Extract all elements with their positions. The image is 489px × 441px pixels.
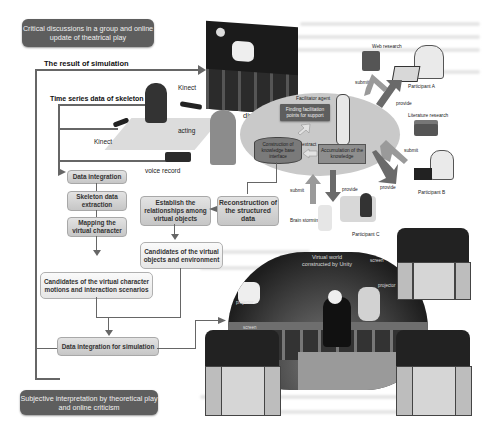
title-critical-discussions: Critical discussions in a group and onli… [22, 19, 154, 47]
knowledge-base-cylinder: Construction of knowledge base interface [254, 137, 302, 164]
arrow-left-icon [209, 206, 217, 212]
label-projector-tl: projector [236, 300, 254, 305]
label-facilitator-agent: Facilitator agent [296, 96, 330, 101]
box-finding-facilitation-points: Finding facilitation points for support [280, 104, 330, 121]
result-line-bottom [35, 378, 60, 380]
box-reconstruction: Reconstruction of the structured data [217, 196, 279, 226]
connector [96, 183, 97, 191]
label-literature-research: Literature research [408, 113, 448, 118]
connector [96, 210, 97, 217]
cave-display-bottom-left [205, 330, 279, 416]
cave-display-bottom-right [396, 330, 470, 416]
arrow-provide-a-icon [376, 80, 402, 108]
arrow-provide-b-icon [372, 150, 398, 184]
label-projector-tr: projector [378, 283, 396, 288]
arrow-right-icon [218, 317, 226, 324]
connector [96, 297, 97, 317]
box-data-integration: Data integration [67, 170, 127, 184]
label-extract: extract [302, 142, 316, 147]
arrow-up-icon [298, 124, 310, 135]
label-screen-tr: screen [370, 258, 384, 263]
actor-figure-image [145, 83, 167, 123]
kinect-device-icon [180, 101, 203, 110]
sim-line-to-world [195, 320, 220, 321]
label-virtual-world: Virtual world constructed by Unity [297, 254, 357, 268]
arrow-down-icon [171, 234, 179, 240]
arrow-down-icon [105, 330, 113, 336]
title-subjective-interpretation: Subjective interpretation by theoretical… [20, 390, 158, 415]
cylinder-connector-v [247, 182, 248, 194]
label-participant-b: Participant B [418, 190, 445, 195]
box-establish-relationships: Establish the relationships among virtua… [140, 196, 211, 226]
label-provide-b: provide [380, 185, 396, 190]
box-skeleton-extraction: Skeleton data extraction [67, 191, 127, 211]
arrow-down-icon [93, 250, 101, 256]
arrow-submit-c-icon [305, 174, 321, 204]
participant-c-person [360, 193, 372, 217]
cylinder-connector [276, 162, 277, 182]
kinect-bottom-line [58, 128, 118, 130]
label-kinect-top: Kinect [178, 84, 196, 91]
facilitator-robot-image [336, 94, 350, 146]
label-web-research: Web research [372, 44, 402, 49]
box-mapping-character: Mapping the virtual character [67, 217, 127, 237]
arrow-left-icon [303, 149, 317, 158]
connector [180, 268, 181, 318]
participant-b-image [430, 150, 454, 180]
label-brain-storming: Brain storming [290, 218, 321, 223]
time-series-line [58, 104, 146, 106]
laptop-icon [414, 168, 432, 180]
label-participant-c: Participant C [352, 232, 379, 237]
label-kinect-bottom: Kinect [94, 138, 112, 145]
brain-storming-icon [318, 205, 332, 231]
result-line-left [35, 69, 37, 380]
discussant-figure-image [210, 110, 236, 165]
label-submit-c: submit [290, 188, 304, 193]
web-research-icon [362, 51, 380, 71]
box-candidates-motions: Candidates of the virtual character moti… [40, 272, 153, 299]
sim-line-right [157, 348, 195, 349]
sim-line-left [35, 348, 57, 349]
box-candidates-objects: Candidates of the virtual objects and en… [140, 242, 223, 269]
box-accumulation-knowledge: Accumulation of the knowledge [318, 144, 366, 164]
cylinder-connector-h [247, 182, 277, 183]
books-icon [414, 124, 438, 136]
cave-display-top-right [397, 228, 469, 300]
label-result-of-simulation: The result of simulation [44, 59, 129, 68]
result-line-top [35, 69, 200, 71]
label-voice-record: voice record [145, 167, 180, 174]
label-acting: acting [178, 127, 195, 134]
box-data-integration-simulation: Data integration for simulation [57, 337, 159, 356]
voice-recorder-icon [165, 152, 191, 162]
label-time-series: Time series data of skeleton [50, 95, 144, 102]
sim-line-up [195, 320, 196, 349]
label-participant-a: Participant A [408, 84, 435, 89]
label-provide-c: provide [342, 187, 358, 192]
arrow-provide-c-icon [325, 170, 341, 202]
voice-line [58, 160, 168, 162]
